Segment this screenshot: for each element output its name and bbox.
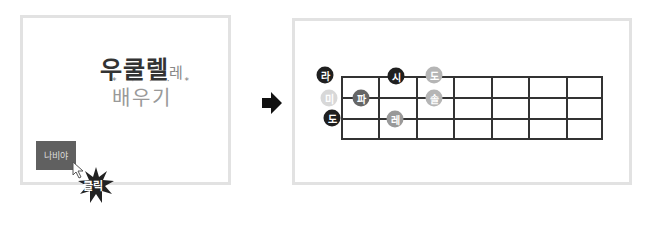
ukulele-fretboard bbox=[341, 76, 603, 140]
note-marker: 도 bbox=[426, 67, 443, 84]
note-marker: 파 bbox=[353, 90, 370, 107]
string-line bbox=[341, 118, 603, 120]
title-line-2: 배우기 bbox=[112, 82, 172, 111]
note-marker: 솔 bbox=[426, 90, 443, 107]
note-marker: 라 bbox=[317, 67, 334, 84]
note-marker: 도 bbox=[324, 110, 341, 127]
note-marker: 미 bbox=[321, 90, 338, 107]
note-marker: 시 bbox=[388, 68, 405, 85]
fret-line bbox=[416, 76, 418, 140]
click-label: 클릭 bbox=[83, 177, 103, 193]
nabiya-button[interactable]: 나비야 bbox=[36, 141, 76, 170]
note-marker: 레 bbox=[387, 111, 404, 128]
fret-line bbox=[453, 76, 455, 140]
fret-line bbox=[378, 76, 380, 140]
right-arrow-icon bbox=[262, 92, 282, 114]
fret-line bbox=[491, 76, 493, 140]
fret-line bbox=[566, 76, 568, 140]
fret-line bbox=[528, 76, 530, 140]
string-line bbox=[341, 97, 603, 99]
